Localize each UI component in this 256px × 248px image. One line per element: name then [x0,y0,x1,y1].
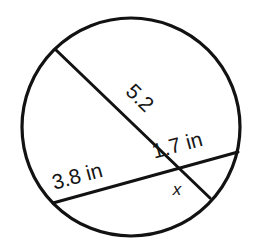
chord-length-label-5-2: 5.2 [122,79,159,116]
chord-length-label-3-8-in: 3.8 in [49,158,105,194]
chord-length-label-1-7-in: 1.7 in [149,127,205,163]
geometry-figure: 5.2 3.8 in 1.7 in x [0,0,256,248]
circle-chords-diagram: 5.2 3.8 in 1.7 in x [0,0,256,248]
unknown-length-label-x: x [172,180,182,199]
